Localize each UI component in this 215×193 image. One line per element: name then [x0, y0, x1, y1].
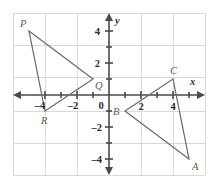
vertex-label-b: B	[113, 106, 120, 117]
vertex-label-q: Q	[95, 80, 103, 91]
vertex-label-r: R	[40, 115, 48, 126]
y-axis-name: y	[113, 15, 120, 26]
y-tick-label-neg2: –2	[91, 122, 103, 133]
x-axis-name: x	[189, 76, 195, 87]
x-tick-label-neg2: –2	[67, 100, 79, 111]
x-tick-label-2: 2	[138, 101, 143, 112]
y-tick-label-4: 4	[95, 26, 101, 37]
vertex-label-a: A	[191, 161, 199, 172]
vertex-label-c: C	[170, 65, 178, 76]
y-tick-label-2: 2	[95, 58, 100, 69]
x-tick-label-neg4: –4	[34, 100, 46, 111]
vertex-label-p: P	[19, 18, 27, 29]
y-tick-label-neg4: –4	[91, 154, 103, 165]
origin-label: 0	[98, 100, 103, 111]
coordinate-plane-figure: –4 –2 0 2 4 4 2 –2 –4 y x P Q R A B C	[0, 0, 215, 193]
coordinate-plane-graphic: –4 –2 0 2 4 4 2 –2 –4 y x P Q R A B C	[0, 0, 215, 193]
x-tick-label-4: 4	[170, 101, 176, 112]
